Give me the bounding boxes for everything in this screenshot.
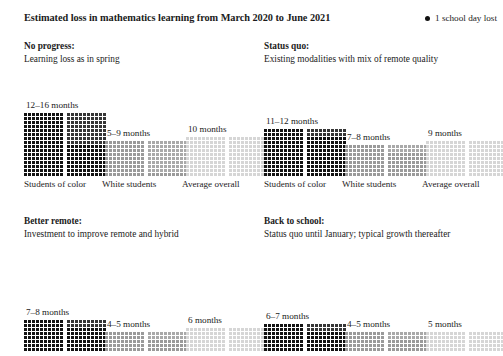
dot bbox=[40, 121, 43, 124]
dot bbox=[469, 344, 472, 347]
dot bbox=[190, 169, 193, 172]
dot bbox=[489, 336, 492, 339]
dot bbox=[446, 332, 449, 335]
dot bbox=[113, 165, 116, 168]
dot bbox=[288, 133, 291, 136]
dot bbox=[79, 149, 82, 152]
dot bbox=[113, 149, 116, 152]
dot bbox=[388, 336, 391, 339]
dot bbox=[52, 173, 55, 176]
dot bbox=[137, 153, 140, 156]
dot bbox=[292, 328, 295, 331]
dot bbox=[129, 173, 132, 176]
dot bbox=[315, 340, 318, 343]
dot bbox=[388, 348, 391, 351]
dot bbox=[345, 157, 348, 160]
dot bbox=[477, 149, 480, 152]
dot bbox=[331, 336, 334, 339]
dot bbox=[268, 145, 271, 148]
dot bbox=[245, 141, 248, 144]
dot bbox=[141, 344, 144, 347]
dot bbox=[420, 161, 423, 164]
dot bbox=[469, 165, 472, 168]
dot bbox=[253, 153, 256, 156]
dot bbox=[113, 157, 116, 160]
dot bbox=[489, 173, 492, 176]
dot bbox=[164, 336, 167, 339]
dot bbox=[420, 165, 423, 168]
dot bbox=[311, 145, 314, 148]
dot bbox=[442, 332, 445, 335]
dot bbox=[392, 332, 395, 335]
dot bbox=[190, 173, 193, 176]
dot bbox=[56, 348, 59, 351]
dot bbox=[133, 161, 136, 164]
dot bbox=[28, 344, 31, 347]
dot bbox=[477, 141, 480, 144]
dot bbox=[109, 340, 112, 343]
dot bbox=[245, 157, 248, 160]
dot bbox=[420, 344, 423, 347]
dot bbox=[462, 348, 465, 351]
dot bbox=[365, 336, 368, 339]
dot-block bbox=[307, 324, 346, 351]
dot bbox=[311, 133, 314, 136]
dot bbox=[292, 324, 295, 327]
dot bbox=[434, 340, 437, 343]
dot bbox=[186, 328, 189, 331]
dot bbox=[426, 340, 429, 343]
dot bbox=[28, 324, 31, 327]
dot bbox=[52, 324, 55, 327]
dot bbox=[79, 332, 82, 335]
dot bbox=[268, 137, 271, 140]
dot bbox=[109, 344, 112, 347]
dot bbox=[268, 129, 271, 132]
dot bbox=[229, 336, 232, 339]
dot bbox=[87, 113, 90, 116]
dot bbox=[218, 137, 221, 140]
dot bbox=[56, 121, 59, 124]
dot bbox=[141, 149, 144, 152]
dot bbox=[40, 153, 43, 156]
dot bbox=[87, 328, 90, 331]
dot bbox=[71, 141, 74, 144]
dot bbox=[315, 324, 318, 327]
dot bbox=[272, 133, 275, 136]
dot bbox=[233, 344, 236, 347]
dot bbox=[280, 173, 283, 176]
dot bbox=[485, 165, 488, 168]
dot bbox=[172, 344, 175, 347]
dot bbox=[253, 332, 256, 335]
dot bbox=[52, 165, 55, 168]
dot bbox=[180, 336, 183, 339]
dot bbox=[323, 141, 326, 144]
dot bbox=[87, 141, 90, 144]
dot bbox=[493, 157, 496, 160]
dot bbox=[400, 153, 403, 156]
dot bbox=[172, 161, 175, 164]
dot bbox=[202, 149, 205, 152]
dot bbox=[485, 169, 488, 172]
dot bbox=[87, 157, 90, 160]
dot bbox=[52, 153, 55, 156]
dot bbox=[339, 153, 342, 156]
dot bbox=[168, 165, 171, 168]
dot bbox=[60, 149, 63, 152]
dot bbox=[331, 165, 334, 168]
dot bbox=[473, 173, 476, 176]
dot bbox=[214, 145, 217, 148]
dot bbox=[408, 145, 411, 148]
dot bbox=[280, 145, 283, 148]
dot bbox=[121, 348, 124, 351]
dot bbox=[141, 348, 144, 351]
dot bbox=[186, 173, 189, 176]
dot bbox=[75, 165, 78, 168]
dot bbox=[327, 169, 330, 172]
dot bbox=[32, 157, 35, 160]
dot bbox=[335, 141, 338, 144]
dot bbox=[202, 328, 205, 331]
dot bbox=[152, 145, 155, 148]
dot bbox=[194, 141, 197, 144]
dot bbox=[164, 332, 167, 335]
dot bbox=[292, 129, 295, 132]
